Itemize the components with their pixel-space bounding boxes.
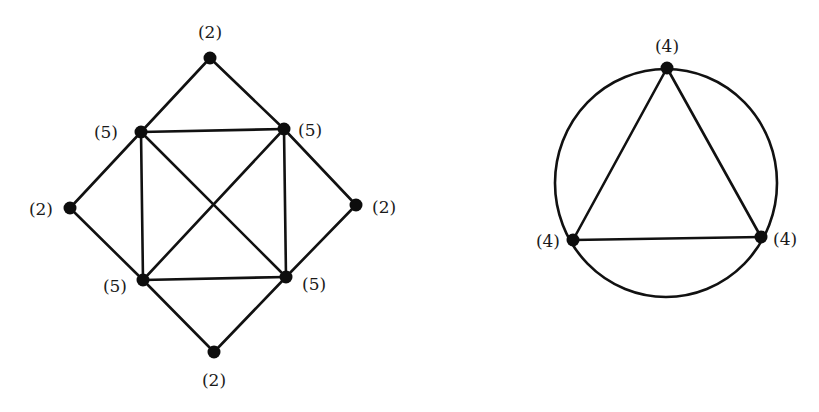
left-graph: (2)(5)(5)(2)(2)(5)(5)(2) <box>29 22 396 390</box>
edge-upper_right-lower_left <box>143 129 284 280</box>
edge-top-left <box>573 68 667 240</box>
edge-top-upper_right <box>210 58 284 129</box>
vertex-lower_left <box>137 274 150 287</box>
vertex-bottom <box>208 346 221 359</box>
vertex-degree-label: (4) <box>655 36 679 56</box>
edge-upper_left-upper_right <box>141 129 284 132</box>
vertex-degree-label: (5) <box>302 274 326 294</box>
vertex-left <box>567 234 580 247</box>
vertex-degree-label: (2) <box>198 22 222 42</box>
edge-upper_left-lower_left <box>141 132 143 280</box>
vertex-top <box>204 52 217 65</box>
vertex-degree-label: (2) <box>29 199 53 219</box>
graph-diagram-canvas: (2)(5)(5)(2)(2)(5)(5)(2) (4)(4)(4) <box>0 0 819 412</box>
vertex-upper_left <box>135 126 148 139</box>
vertex-degree-label: (5) <box>94 122 118 142</box>
edge-upper_right-right <box>284 129 356 205</box>
vertex-degree-label: (2) <box>372 197 396 217</box>
edge-upper_left-left <box>70 132 141 208</box>
edge-top-upper_left <box>141 58 210 132</box>
edge-upper_right-lower_right <box>284 129 286 277</box>
right-graph: (4)(4)(4) <box>536 36 797 297</box>
vertex-right <box>350 199 363 212</box>
edge-lower_left-lower_right <box>143 277 286 280</box>
edge-right-lower_right <box>286 205 356 277</box>
edge-left-lower_left <box>70 208 143 280</box>
vertex-lower_right <box>280 271 293 284</box>
vertex-degree-label: (4) <box>536 231 560 251</box>
edge-lower_left-bottom <box>143 280 214 352</box>
edge-left-right <box>573 237 761 240</box>
edge-top-right <box>667 68 761 237</box>
vertex-degree-label: (2) <box>202 370 226 390</box>
edge-lower_right-bottom <box>214 277 286 352</box>
vertex-left <box>64 202 77 215</box>
circle-edge <box>555 69 777 297</box>
vertex-degree-label: (4) <box>773 229 797 249</box>
vertex-upper_right <box>278 123 291 136</box>
vertex-degree-label: (5) <box>103 276 127 296</box>
vertex-right <box>755 231 768 244</box>
vertex-top <box>661 62 674 75</box>
vertex-degree-label: (5) <box>298 120 322 140</box>
